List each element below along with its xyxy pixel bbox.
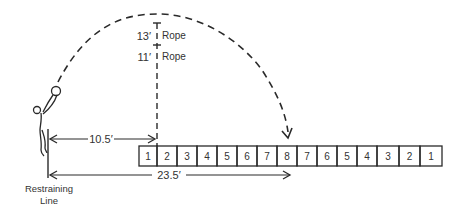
distance-long-label: 23.5′: [157, 169, 180, 181]
target-box-label: 3: [385, 151, 391, 162]
rope-high-height: 13′: [137, 30, 151, 42]
head-icon: [34, 107, 41, 114]
target-box-label: 5: [224, 151, 230, 162]
distance-short-label: 10.5′: [89, 133, 112, 145]
thrower-figure: [34, 87, 61, 157]
ball-icon: [52, 87, 61, 96]
target-box-label: 3: [184, 151, 190, 162]
target-box-label: 7: [264, 151, 270, 162]
diagram-canvas: 13′ Rope 11′ Rope 10.5′ 23.5′ Restrainin…: [0, 0, 469, 216]
target-box-label: 4: [204, 151, 210, 162]
target-box-label: 6: [244, 151, 250, 162]
target-box-label: 2: [407, 151, 413, 162]
rope-low-height: 11′: [138, 51, 151, 63]
target-box-label: 8: [284, 151, 290, 162]
restraining-line-label-2: Line: [40, 195, 58, 206]
target-box-label: 4: [364, 151, 370, 162]
rope-low-label: Rope: [162, 51, 186, 62]
rope-high-label: Rope: [162, 30, 186, 41]
target-box-label: 2: [164, 151, 170, 162]
target-box-label: 5: [344, 151, 350, 162]
target-box-label: 6: [324, 151, 330, 162]
target-box-label: 1: [428, 151, 434, 162]
target-box-label: 1: [145, 151, 151, 162]
restraining-line-label-1: Restraining: [25, 183, 73, 194]
target-box-label: 7: [304, 151, 310, 162]
target-boxes: 123456787654321: [139, 146, 442, 166]
